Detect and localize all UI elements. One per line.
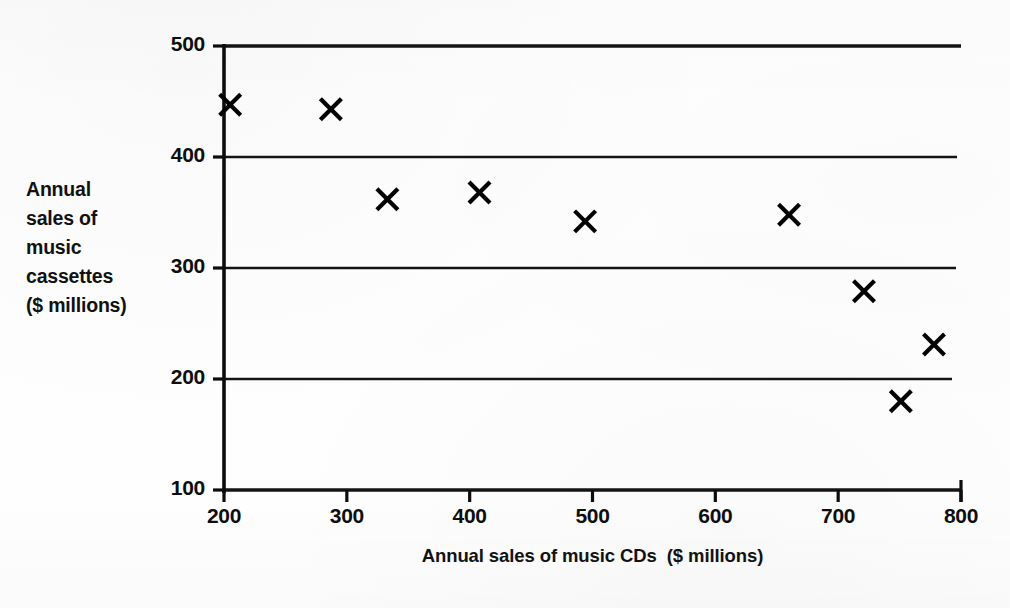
data-point-5 — [575, 211, 596, 232]
data-point-8 — [923, 334, 944, 355]
data-point-2 — [320, 99, 341, 120]
data-point-9 — [890, 391, 911, 412]
chart-canvas: Annual sales of music cassettes ($ milli… — [0, 0, 1010, 608]
data-point-3 — [377, 189, 398, 210]
data-point-6 — [779, 204, 800, 225]
data-point-4 — [469, 182, 490, 203]
data-point-7 — [853, 281, 874, 302]
plot-area — [0, 0, 1010, 608]
